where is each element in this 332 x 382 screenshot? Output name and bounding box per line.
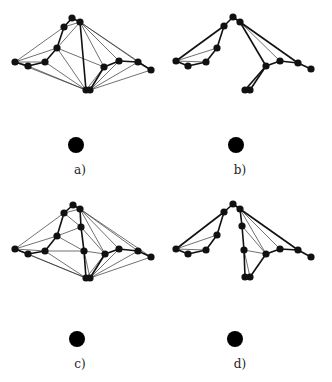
graph-node [172, 57, 179, 64]
thin-edge [15, 213, 64, 249]
thick-edge [242, 226, 244, 250]
thick-edge [240, 22, 298, 63]
panel-label: a) [74, 163, 86, 177]
graph-node [60, 23, 67, 30]
thick-edge [240, 209, 298, 250]
graph-node [134, 58, 141, 65]
graph-node [294, 59, 301, 66]
thin-edge [80, 22, 119, 61]
graph-node [41, 247, 48, 254]
panel-c: c) [11, 201, 154, 371]
thick-edge [81, 227, 84, 251]
graph-node [262, 250, 269, 257]
graph-node [220, 22, 227, 29]
graph-node [184, 62, 191, 69]
graph-node [229, 13, 236, 20]
thick-edge [250, 66, 266, 90]
graph-node [134, 247, 141, 254]
graph-node [24, 250, 31, 257]
thin-edge [28, 254, 86, 278]
thin-edge [176, 48, 217, 61]
thick-edge [176, 212, 224, 249]
graph-node [202, 246, 209, 253]
panel-label: c) [74, 357, 85, 371]
source-node [68, 137, 84, 153]
graph-node [213, 44, 220, 51]
thick-edge [176, 26, 224, 61]
graph-node [76, 205, 83, 212]
thin-edge [57, 48, 104, 67]
thick-edge [250, 254, 266, 277]
graph-node [276, 57, 283, 64]
thin-edge [45, 251, 86, 278]
graph-node [246, 273, 253, 280]
graph-node [100, 63, 107, 70]
thick-edge [244, 250, 245, 277]
thin-edge [176, 235, 217, 249]
graph-node [147, 253, 154, 260]
graph-node [307, 253, 314, 260]
graph-node [115, 57, 122, 64]
graph-node [53, 232, 60, 239]
graph-node [101, 250, 108, 257]
graph-node [76, 18, 83, 25]
graph-node [115, 245, 122, 252]
graph-node [53, 44, 60, 51]
panel-label: d) [234, 357, 246, 371]
graph-node [240, 246, 247, 253]
graph-node [11, 245, 18, 252]
panel-label: b) [234, 163, 246, 177]
graph-node [80, 247, 87, 254]
graph-node [41, 58, 48, 65]
panel-a: a) [11, 14, 154, 177]
graph-node [69, 201, 76, 208]
graph-node [229, 200, 236, 207]
source-node [227, 331, 243, 347]
source-node [228, 137, 244, 153]
graph-node [213, 231, 220, 238]
graph-node [172, 245, 179, 252]
thin-edge [90, 257, 151, 278]
thin-edge [80, 209, 119, 249]
graph-node [60, 209, 67, 216]
graph-node [184, 250, 191, 257]
thin-edge [176, 61, 206, 62]
graph-node [246, 86, 253, 93]
panel-d: d) [172, 200, 314, 371]
graph-node [276, 245, 283, 252]
thin-edge [57, 236, 84, 251]
graph-node [68, 14, 75, 21]
graph-node [86, 86, 93, 93]
graph-node [238, 222, 245, 229]
thick-edge [90, 254, 105, 278]
graph-node [24, 62, 31, 69]
thick-edge [57, 213, 64, 236]
network-diagram-figure: a) b) c) d) [0, 0, 332, 382]
graph-node [147, 66, 154, 73]
graph-node [236, 205, 243, 212]
graph-node [307, 65, 314, 72]
thin-edge [176, 249, 206, 250]
source-node [69, 331, 85, 347]
graph-node [77, 223, 84, 230]
thin-edge [15, 236, 57, 249]
graph-node [220, 208, 227, 215]
thin-edge [90, 251, 138, 278]
graph-node [236, 18, 243, 25]
thin-edge [57, 227, 81, 236]
graph-node [294, 246, 301, 253]
graph-node [262, 62, 269, 69]
panel-b: b) [172, 13, 314, 177]
graph-node [11, 58, 18, 65]
graph-node [86, 274, 93, 281]
thick-edge [84, 251, 86, 278]
graph-node [202, 58, 209, 65]
